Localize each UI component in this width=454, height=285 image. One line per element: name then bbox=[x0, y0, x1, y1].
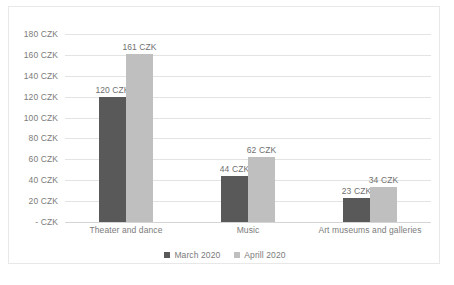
legend-item[interactable]: Aprill 2020 bbox=[234, 250, 285, 260]
bar-group: 120 CZK161 CZK bbox=[65, 34, 187, 222]
bar-value-label: 120 CZK bbox=[95, 85, 129, 95]
y-axis-tick-label: 20 CZK bbox=[29, 196, 58, 206]
bar-column: 34 CZK bbox=[370, 34, 397, 222]
bars-layer: 120 CZK161 CZK44 CZK62 CZK23 CZK34 CZK bbox=[65, 34, 431, 222]
y-axis-tick-label: 180 CZK bbox=[24, 29, 58, 39]
gridline bbox=[65, 222, 431, 223]
y-axis-tick-label: 140 CZK bbox=[24, 71, 58, 81]
bar-column: 161 CZK bbox=[126, 34, 153, 222]
bar-pair: 44 CZK62 CZK bbox=[221, 34, 275, 222]
bar[interactable] bbox=[99, 97, 126, 222]
bar[interactable] bbox=[126, 54, 153, 222]
y-axis-tick-label: 100 CZK bbox=[24, 113, 58, 123]
chart-container: 180 CZK160 CZK140 CZK120 CZK100 CZK80 CZ… bbox=[8, 6, 440, 264]
bar-group: 44 CZK62 CZK bbox=[187, 34, 309, 222]
x-axis-tick-label: Art museums and galleries bbox=[309, 225, 431, 235]
bar[interactable] bbox=[343, 198, 370, 222]
legend-label: March 2020 bbox=[174, 250, 220, 260]
chart-legend: March 2020Aprill 2020 bbox=[9, 250, 441, 260]
bar-column: 120 CZK bbox=[99, 34, 126, 222]
x-axis: Theater and danceMusicArt museums and ga… bbox=[65, 225, 431, 241]
bar[interactable] bbox=[248, 157, 275, 222]
x-axis-tick-label: Music bbox=[187, 225, 309, 235]
bar[interactable] bbox=[370, 187, 397, 223]
y-axis-tick-label: 80 CZK bbox=[29, 133, 58, 143]
bar-pair: 120 CZK161 CZK bbox=[99, 34, 153, 222]
y-axis-tick-label: 160 CZK bbox=[24, 50, 58, 60]
bar[interactable] bbox=[221, 176, 248, 222]
bar-value-label: 62 CZK bbox=[247, 145, 276, 155]
legend-item[interactable]: March 2020 bbox=[164, 250, 220, 260]
square-marker-light bbox=[234, 252, 240, 258]
bar-column: 23 CZK bbox=[343, 34, 370, 222]
legend-label: Aprill 2020 bbox=[244, 250, 285, 260]
bar-value-label: 161 CZK bbox=[122, 42, 156, 52]
bar-column: 44 CZK bbox=[221, 34, 248, 222]
y-axis: 180 CZK160 CZK140 CZK120 CZK100 CZK80 CZ… bbox=[9, 34, 61, 222]
y-axis-tick-label: 60 CZK bbox=[29, 154, 58, 164]
bar-value-label: 23 CZK bbox=[342, 186, 371, 196]
bar-group: 23 CZK34 CZK bbox=[309, 34, 431, 222]
bar-column: 62 CZK bbox=[248, 34, 275, 222]
y-axis-tick-label: 120 CZK bbox=[24, 92, 58, 102]
y-axis-tick-label: 40 CZK bbox=[29, 175, 58, 185]
y-axis-tick-label: - CZK bbox=[35, 217, 58, 227]
x-axis-tick-label: Theater and dance bbox=[65, 225, 187, 235]
bar-value-label: 34 CZK bbox=[369, 175, 398, 185]
bar-value-label: 44 CZK bbox=[220, 164, 249, 174]
bar-pair: 23 CZK34 CZK bbox=[343, 34, 397, 222]
square-marker-dark bbox=[164, 252, 170, 258]
